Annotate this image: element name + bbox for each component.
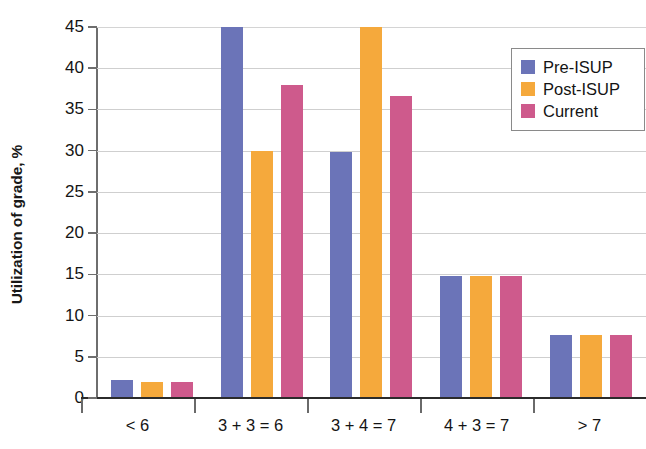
x-tick-mark-3 — [420, 399, 422, 413]
y-tick-label-5: 5 — [75, 347, 84, 367]
bar-current-5[interactable] — [610, 335, 632, 398]
y-tick-mark-15 — [88, 274, 97, 276]
x-tick-mark-4 — [533, 399, 535, 413]
bar-pre-isup-4[interactable] — [440, 276, 462, 398]
bar-group — [97, 27, 207, 398]
legend-item-post-isup[interactable]: Post-ISUP — [521, 78, 636, 100]
y-tick-label-35: 35 — [65, 99, 84, 119]
y-tick-mark-0 — [88, 397, 97, 399]
y-tick-label-40: 40 — [65, 58, 84, 78]
y-tick-mark-35 — [88, 109, 97, 111]
legend-swatch-icon — [521, 60, 535, 74]
y-tick-mark-25 — [88, 191, 97, 193]
y-tick-mark-10 — [88, 315, 97, 317]
y-axis-tick-labels: 051015202530354045 — [40, 0, 84, 449]
bar-current-2[interactable] — [281, 85, 303, 398]
bar-current-3[interactable] — [390, 96, 412, 398]
bar-current-4[interactable] — [500, 276, 522, 398]
x-tick-mark-0 — [81, 399, 83, 413]
y-tick-mark-40 — [88, 67, 97, 69]
x-axis-line — [81, 397, 646, 399]
bar-post-isup-3[interactable] — [360, 27, 382, 398]
y-tick-mark-45 — [88, 26, 97, 28]
chart-legend: Pre-ISUPPost-ISUPCurrent — [511, 48, 645, 131]
bar-pre-isup-2[interactable] — [221, 27, 243, 398]
y-tick-mark-5 — [88, 356, 97, 358]
legend-swatch-icon — [521, 82, 535, 96]
bar-post-isup-4[interactable] — [470, 276, 492, 398]
x-tick-mark-2 — [307, 399, 309, 413]
y-tick-label-25: 25 — [65, 182, 84, 202]
bar-current-1[interactable] — [171, 382, 193, 398]
bar-post-isup-5[interactable] — [580, 335, 602, 398]
x-category-label-1: < 6 — [126, 416, 149, 435]
bar-post-isup-1[interactable] — [141, 382, 163, 398]
bar-pre-isup-3[interactable] — [330, 152, 352, 399]
y-tick-label-30: 30 — [65, 141, 84, 161]
bar-pre-isup-5[interactable] — [550, 335, 572, 398]
y-tick-label-15: 15 — [65, 264, 84, 284]
bar-chart-figure: Utilization of grade, % 0510152025303540… — [0, 0, 646, 449]
legend-label: Current — [543, 103, 598, 120]
legend-item-pre-isup[interactable]: Pre-ISUP — [521, 56, 636, 78]
x-category-label-2: 3 + 3 = 6 — [218, 416, 283, 435]
x-category-label-4: 4 + 3 = 7 — [444, 416, 509, 435]
y-tick-label-20: 20 — [65, 223, 84, 243]
legend-label: Pre-ISUP — [543, 59, 613, 76]
legend-label: Post-ISUP — [543, 81, 620, 98]
x-category-label-5: > 7 — [578, 416, 601, 435]
y-tick-label-45: 45 — [65, 17, 84, 37]
legend-item-current[interactable]: Current — [521, 100, 636, 122]
bar-group — [317, 27, 427, 398]
x-category-label-3: 3 + 4 = 7 — [331, 416, 396, 435]
bar-post-isup-2[interactable] — [251, 151, 273, 398]
y-axis-title: Utilization of grade, % — [0, 0, 34, 449]
y-tick-label-10: 10 — [65, 306, 84, 326]
x-tick-mark-1 — [194, 399, 196, 413]
y-tick-mark-30 — [88, 150, 97, 152]
bar-group — [207, 27, 317, 398]
legend-swatch-icon — [521, 104, 535, 118]
y-tick-mark-20 — [88, 232, 97, 234]
bar-pre-isup-1[interactable] — [111, 380, 133, 398]
